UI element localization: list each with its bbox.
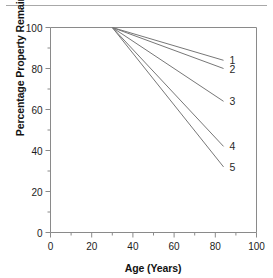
x-tick-label: 60: [169, 241, 180, 252]
y-tick-label: 40: [31, 145, 42, 156]
x-tick-label: 0: [48, 241, 54, 252]
x-tick-label: 40: [127, 241, 138, 252]
series-line-3: [112, 28, 223, 102]
y-tick-label: 20: [31, 186, 42, 197]
series-line-1: [112, 28, 223, 61]
y-tick-label: 80: [31, 63, 42, 74]
x-axis-title: Age (Years): [50, 258, 256, 276]
series-label-4: 4: [230, 140, 236, 152]
axis-lines: [51, 28, 257, 233]
x-axis-title-text: Age (Years): [125, 262, 182, 274]
x-tick-label: 80: [210, 241, 221, 252]
y-tick-label: 0: [37, 227, 43, 238]
series-label-5: 5: [230, 161, 236, 173]
y-axis-title-text: Percentage Property Remaining (Average): [14, 0, 26, 136]
y-tick-label: 100: [26, 22, 43, 33]
series-label-2: 2: [230, 63, 236, 75]
x-tick-label: 100: [248, 241, 265, 252]
series-line-4: [112, 28, 223, 147]
y-axis-title: Percentage Property Remaining (Average): [13, 0, 27, 137]
tick-marks: [46, 28, 257, 238]
figure-container: 020406080100 020406080100 12345 Percenta…: [0, 0, 273, 278]
y-tick-label: 60: [31, 104, 42, 115]
series-label-3: 3: [230, 95, 236, 107]
data-series-lines: [112, 28, 223, 167]
x-tick-label: 20: [86, 241, 97, 252]
